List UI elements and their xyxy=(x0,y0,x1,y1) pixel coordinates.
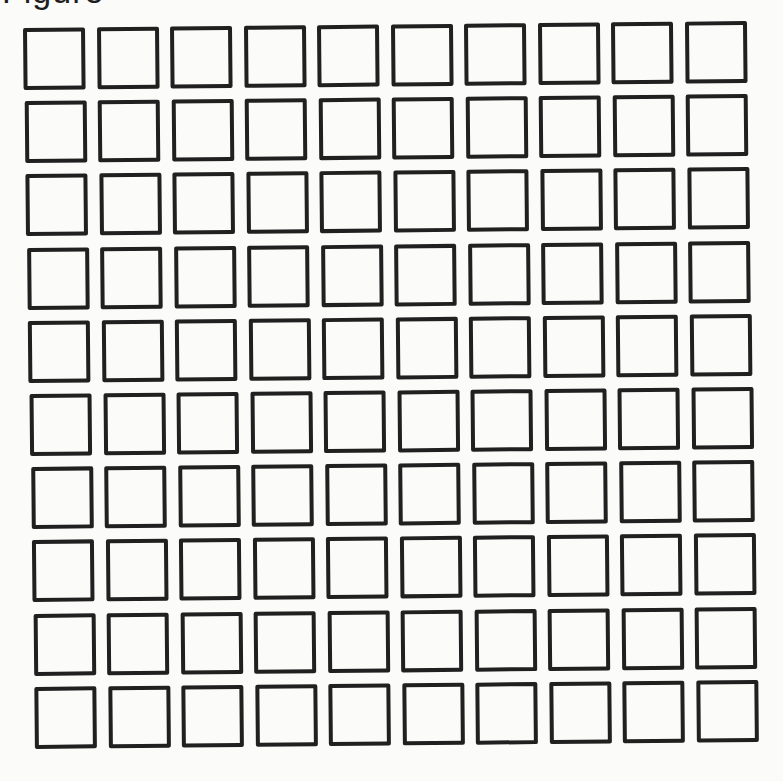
grid-box xyxy=(103,393,166,456)
grid-box xyxy=(318,98,381,161)
grid-box xyxy=(544,388,607,451)
grid-box xyxy=(253,538,316,601)
grid-box xyxy=(96,27,159,90)
grid-box xyxy=(694,533,757,596)
grid-box xyxy=(26,174,89,237)
grid-box xyxy=(469,316,532,379)
grid-box xyxy=(326,537,389,600)
grid-box xyxy=(329,683,392,746)
grid-box xyxy=(611,22,674,85)
grid-box xyxy=(398,463,461,526)
grid-box xyxy=(107,612,170,675)
grid-box xyxy=(548,608,611,671)
grid-box xyxy=(692,460,755,523)
grid-box xyxy=(465,96,528,159)
grid-box xyxy=(28,320,91,383)
grid-box xyxy=(243,25,306,88)
grid-box xyxy=(174,246,237,309)
grid-box xyxy=(464,23,527,86)
grid-box xyxy=(180,612,243,675)
grid-box xyxy=(106,539,169,602)
grid-box xyxy=(615,241,678,304)
grid-box xyxy=(476,682,539,745)
grid-box xyxy=(696,680,759,743)
grid-box xyxy=(327,610,390,673)
grid-box xyxy=(397,390,460,453)
grid-box xyxy=(472,462,535,525)
grid-box xyxy=(255,684,318,747)
grid-box xyxy=(245,98,308,161)
grid-box xyxy=(249,318,312,381)
grid-box xyxy=(541,242,604,305)
grid-box xyxy=(392,97,455,160)
grid-box xyxy=(325,464,388,527)
grid-box xyxy=(100,246,163,309)
grid-box xyxy=(98,100,161,163)
grid-box xyxy=(323,391,386,454)
grid-box xyxy=(396,317,459,380)
grid-box xyxy=(468,243,531,306)
grid-box xyxy=(537,22,600,85)
grid-box xyxy=(691,387,754,450)
grid-box xyxy=(695,607,758,670)
grid-box xyxy=(545,462,608,525)
grid-box xyxy=(549,681,612,744)
grid-box xyxy=(179,538,242,601)
grid-box xyxy=(686,94,749,157)
grid-box xyxy=(247,245,310,308)
grid-box xyxy=(688,241,751,304)
grid-box xyxy=(177,392,240,455)
grid-box xyxy=(614,168,677,231)
grid-box xyxy=(687,167,750,230)
grid-box xyxy=(23,27,86,90)
grid-box xyxy=(400,536,463,599)
grid-box xyxy=(394,243,457,306)
grid-box xyxy=(178,465,241,528)
grid-box xyxy=(24,101,87,164)
grid-box xyxy=(182,685,245,748)
grid-box xyxy=(317,25,380,88)
grid-box xyxy=(102,319,165,382)
grid-box xyxy=(35,686,98,749)
figure-caption-clipped: Figure xyxy=(2,0,104,8)
grid-box xyxy=(246,172,309,235)
grid-box xyxy=(322,317,385,380)
grid-box xyxy=(540,169,603,232)
grid-box xyxy=(27,247,90,310)
grid-box xyxy=(617,388,680,451)
grid-box xyxy=(108,685,171,748)
grid-box xyxy=(402,683,465,746)
grid-box xyxy=(254,611,317,674)
box-grid xyxy=(23,21,767,763)
grid-box xyxy=(620,534,683,597)
grid-box xyxy=(170,26,233,89)
grid-box xyxy=(621,607,684,670)
grid-box xyxy=(470,389,533,452)
grid-box xyxy=(612,95,675,158)
grid-box xyxy=(175,319,238,382)
grid-box xyxy=(32,540,95,603)
grid-box xyxy=(401,609,464,672)
grid-box xyxy=(390,24,453,87)
grid-box xyxy=(690,314,753,377)
grid-box xyxy=(539,96,602,159)
grid-box xyxy=(547,535,610,598)
grid-box xyxy=(474,609,537,672)
grid-box xyxy=(467,170,530,233)
grid-box xyxy=(104,466,167,529)
grid-box xyxy=(171,99,234,162)
grid-box xyxy=(393,170,456,233)
grid-box xyxy=(250,391,313,454)
grid-box xyxy=(99,173,162,236)
grid-box xyxy=(251,464,314,527)
grid-box xyxy=(321,244,384,307)
grid-box xyxy=(173,172,236,235)
grid-box xyxy=(543,315,606,378)
grid-box xyxy=(623,680,686,743)
grid-box xyxy=(616,315,679,378)
grid-box xyxy=(684,21,747,84)
grid-box xyxy=(619,461,682,524)
grid-box xyxy=(473,535,536,598)
grid-box xyxy=(31,467,94,530)
grid-box xyxy=(320,171,383,234)
